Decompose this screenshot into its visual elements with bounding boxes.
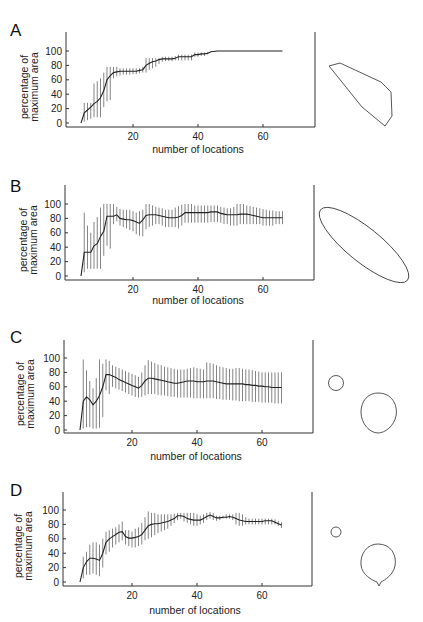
- y-axis-title-line2: maximum area: [22, 511, 34, 581]
- y-tick-label: 40: [51, 89, 63, 100]
- panel-letter: D: [10, 481, 22, 500]
- y-tick-label: 0: [56, 118, 62, 129]
- y-tick-label: 60: [48, 533, 60, 544]
- y-tick-label: 100: [43, 353, 60, 364]
- mean-line: [81, 51, 283, 123]
- plot-area: 020406080100204060: [44, 185, 314, 295]
- axes-frame: [63, 492, 312, 586]
- panel-d: D 020406080100204060 number of locations…: [10, 481, 395, 616]
- panel-b: B 020406080100204060 number of locations…: [10, 177, 418, 306]
- mean-line: [80, 375, 282, 430]
- y-tick-label: 20: [49, 410, 61, 421]
- y-tick-label: 80: [49, 367, 61, 378]
- large-oval-shape: [361, 393, 396, 433]
- x-tick-label: 20: [127, 284, 139, 295]
- axes-frame: [64, 340, 313, 433]
- y-tick-label: 0: [53, 577, 59, 588]
- x-tick-label: 60: [256, 590, 268, 601]
- x-axis-title: number of locations: [152, 143, 244, 155]
- panel-letter: B: [10, 177, 21, 196]
- plot-area: 020406080100204060: [43, 340, 313, 448]
- y-axis-title-line2: maximum area: [24, 359, 36, 429]
- x-tick-label: 60: [256, 437, 268, 448]
- y-tick-label: 20: [50, 256, 62, 267]
- y-tick-label: 80: [51, 60, 63, 71]
- x-tick-label: 60: [257, 284, 269, 295]
- mean-line: [80, 515, 282, 582]
- y-tick-label: 60: [51, 74, 63, 85]
- plot-area: 020406080100204060: [42, 492, 312, 601]
- x-axis-title: number of locations: [152, 294, 244, 306]
- y-tick-label: 100: [45, 46, 62, 57]
- y-tick-label: 80: [50, 213, 62, 224]
- x-tick-label: 20: [127, 131, 139, 142]
- y-tick-label: 60: [49, 381, 61, 392]
- panel-letter: A: [10, 21, 22, 40]
- x-axis-title: number of locations: [149, 604, 241, 616]
- small-circle-shape: [329, 376, 344, 391]
- panel-letter: C: [10, 328, 22, 347]
- y-tick-label: 80: [48, 519, 60, 530]
- error-bars: [83, 359, 281, 428]
- small-circle-shape: [331, 527, 341, 537]
- y-tick-label: 40: [50, 242, 62, 253]
- axes-frame: [65, 185, 314, 280]
- x-tick-label: 20: [126, 590, 138, 601]
- teardrop-shape: [361, 544, 395, 586]
- plot-area: 020406080100204060: [45, 32, 315, 142]
- x-tick-label: 40: [191, 437, 203, 448]
- ellipse-shape: [310, 197, 418, 294]
- figure: A 020406080100204060 number of locations…: [0, 0, 423, 622]
- y-tick-label: 20: [51, 103, 63, 114]
- y-tick-label: 60: [50, 227, 62, 238]
- y-tick-label: 20: [48, 562, 60, 573]
- panel-a: A 020406080100204060 number of locations…: [10, 21, 392, 155]
- y-tick-label: 0: [54, 425, 60, 436]
- x-axis-title: number of locations: [150, 450, 242, 462]
- y-tick-label: 100: [44, 199, 61, 210]
- y-axis-title-line2: maximum area: [27, 205, 39, 275]
- x-tick-label: 20: [126, 437, 138, 448]
- error-bars: [84, 52, 208, 122]
- y-tick-label: 100: [42, 505, 59, 516]
- irregular-polygon-shape: [329, 63, 392, 126]
- x-tick-label: 60: [257, 131, 269, 142]
- y-tick-label: 0: [55, 271, 61, 282]
- panel-c: C 020406080100204060 number of locations…: [10, 328, 396, 462]
- x-tick-label: 40: [192, 131, 204, 142]
- y-tick-label: 40: [49, 396, 61, 407]
- y-axis-title-line2: maximum area: [28, 52, 40, 122]
- y-tick-label: 40: [48, 548, 60, 559]
- x-tick-label: 40: [191, 590, 203, 601]
